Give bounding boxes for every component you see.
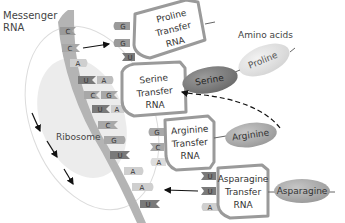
codon-letter: A [76,60,81,68]
messenger-rna-label: Messenger RNA [3,10,57,34]
anticodon-letter: G [154,129,159,137]
amino-acids-label: Amino acids [238,29,293,41]
anticodon-letter: G [120,40,125,48]
amino-acid-serine: Serine [180,62,240,97]
arrow-right-icon [83,44,109,48]
codon-tab: A [124,167,144,176]
trna-proline: Proline Transfer RNA [134,0,215,58]
ribosome-label: Ribosome [56,131,100,143]
trna-label: RNA [180,151,200,161]
codon-letter: C [68,45,73,53]
asparagine-anticodons: U U A [201,172,218,212]
trna-label: RNA [233,200,253,210]
codon-letter: U [97,106,102,114]
trna-serine: Serine Transfer RNA [122,62,196,116]
amino-acid-arginine: Arginine [224,119,279,150]
codon-tab: C [62,44,80,53]
codon-letter: U [83,77,88,85]
anticodon-letter: U [207,173,212,181]
codon-letter: A [140,184,145,192]
svg-text:G: G [106,92,111,100]
arrow-down-icon [64,169,73,184]
anticodon-letter: A [208,204,213,212]
trna-label: RNA [145,100,165,110]
anticodon-letter: C [156,144,161,152]
anticodon-letter: U [127,54,132,62]
codon-letter: C [91,92,96,100]
codon-tab: A [132,183,154,192]
codon-tab: A [70,59,88,68]
codon-tab: G [104,136,126,145]
trna-label: Asparagine [218,174,269,184]
svg-text:A: A [115,106,120,114]
protein-synthesis-diagram: C C A U C U C G U A A U A G A G G U G C … [0,0,345,223]
svg-text:A: A [102,77,107,85]
codon-letter: U [117,152,122,160]
anticodon-letter: G [120,23,125,31]
codon-letter: C [106,122,111,130]
arrow-left-icon [165,190,198,191]
amino-acid-label: Asparagine [277,186,328,196]
codon-tab: U [110,151,130,160]
label-line: RNA [3,22,57,34]
anticodon-letter: A [157,159,162,167]
codon-letter: A [131,168,136,176]
amino-acid-proline: Proline [234,37,295,83]
trna-asparagine: Asparagine Transfer RNA [218,165,280,218]
trna-label: Transfer [224,187,261,197]
proline-anticodons: G G U [114,22,136,62]
amino-acid-asparagine: Asparagine [274,179,335,203]
anticodon-letter: U [207,188,212,196]
arginine-anticodons: G C A [149,128,167,167]
trna-arginine: Arginine Transfer RNA [165,116,226,170]
label-line: Messenger [3,10,57,22]
codon-letter: C [66,28,71,36]
codon-letter: U [145,201,150,209]
codon-tab: U [140,200,160,209]
codon-letter: G [111,137,116,145]
